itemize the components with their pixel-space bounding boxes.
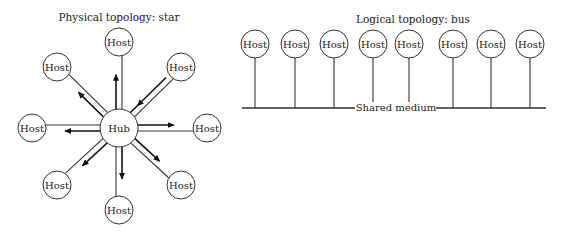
host-node: Host bbox=[320, 30, 348, 58]
hub-node: Hub bbox=[100, 109, 138, 147]
host-label: Host bbox=[107, 205, 131, 216]
host-label: Host bbox=[195, 123, 219, 134]
host-label: Host bbox=[361, 39, 385, 50]
host-label: Host bbox=[397, 39, 421, 50]
host-node: Host bbox=[395, 30, 423, 58]
physical-topology-title: Physical topology: star bbox=[58, 11, 180, 23]
host-label: Host bbox=[45, 62, 69, 73]
bus-hosts: HostHostHostHostHostHostHostHost bbox=[241, 30, 544, 108]
hub-label: Hub bbox=[108, 123, 130, 134]
host-node: Host bbox=[193, 114, 221, 142]
host-label: Host bbox=[169, 62, 193, 73]
host-label: Host bbox=[479, 39, 503, 50]
host-node: Host bbox=[105, 196, 133, 224]
logical-topology-title: Logical topology: bus bbox=[356, 13, 470, 25]
host-node: Host bbox=[167, 53, 195, 81]
host-label: Host bbox=[20, 123, 44, 134]
host-label: Host bbox=[518, 39, 542, 50]
host-node: Host bbox=[105, 28, 133, 56]
host-node: Host bbox=[167, 171, 195, 199]
host-label: Host bbox=[107, 37, 131, 48]
logical-bus-topology: Logical topology: bus Shared medium Host… bbox=[241, 13, 546, 113]
host-label: Host bbox=[441, 39, 465, 50]
host-node: Host bbox=[18, 114, 46, 142]
host-node: Host bbox=[43, 171, 71, 199]
host-node: Host bbox=[43, 53, 71, 81]
host-label: Host bbox=[45, 180, 69, 191]
topology-diagram: Physical topology: star Hub HostHostHost… bbox=[0, 0, 562, 233]
host-node: Host bbox=[439, 30, 467, 58]
host-label: Host bbox=[243, 39, 267, 50]
shared-medium-label: Shared medium bbox=[356, 102, 437, 113]
host-node: Host bbox=[241, 30, 269, 58]
host-node: Host bbox=[516, 30, 544, 58]
physical-star-topology: Physical topology: star Hub HostHostHost… bbox=[18, 11, 221, 224]
host-node: Host bbox=[281, 30, 309, 58]
host-node: Host bbox=[477, 30, 505, 58]
host-label: Host bbox=[322, 39, 346, 50]
host-label: Host bbox=[169, 180, 193, 191]
host-node: Host bbox=[359, 30, 387, 58]
host-label: Host bbox=[283, 39, 307, 50]
